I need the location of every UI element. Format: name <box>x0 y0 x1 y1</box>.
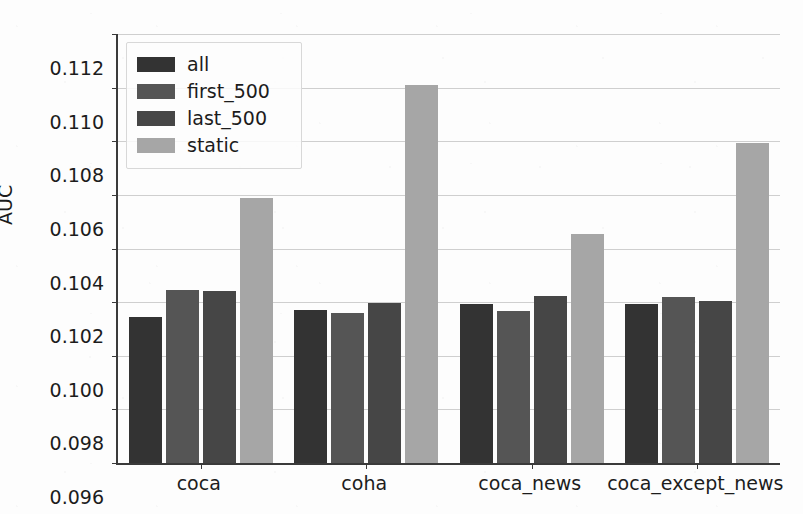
y-tick-mark <box>112 463 118 464</box>
x-group-label: coha <box>341 472 387 494</box>
x-group-label: coca <box>177 472 221 494</box>
bar <box>571 234 604 463</box>
gridline <box>118 195 780 196</box>
legend-label: first_500 <box>187 82 270 101</box>
bar <box>534 296 567 463</box>
legend-item: static <box>137 132 291 159</box>
bar <box>331 313 364 463</box>
x-tick-mark <box>532 463 533 469</box>
y-tick-label: 0.112 <box>14 59 104 78</box>
y-tick-mark <box>112 195 118 196</box>
bar <box>662 297 695 463</box>
gridline <box>118 34 780 35</box>
y-tick-label: 0.104 <box>14 273 104 292</box>
y-tick-label: 0.102 <box>14 327 104 346</box>
bar <box>497 311 530 463</box>
bar <box>405 85 438 463</box>
legend-item: first_500 <box>137 78 291 105</box>
bar <box>129 317 162 463</box>
x-group-label: coca_news <box>478 472 581 494</box>
x-tick-mark <box>201 463 202 469</box>
y-tick-mark <box>112 409 118 410</box>
y-tick-label: 0.106 <box>14 219 104 238</box>
bar <box>625 304 658 463</box>
bar <box>736 143 769 463</box>
legend-swatch <box>137 84 175 99</box>
y-tick-mark <box>112 34 118 35</box>
bar-chart-figure: 0.1120.1100.1080.1060.1040.1020.1000.098… <box>0 0 803 514</box>
bar <box>460 304 493 463</box>
x-tick-mark <box>366 463 367 469</box>
y-axis-title: AUC <box>0 185 16 225</box>
y-tick-label: 0.098 <box>14 434 104 453</box>
bar <box>294 310 327 463</box>
legend-item: last_500 <box>137 105 291 132</box>
y-tick-mark <box>112 356 118 357</box>
y-tick-label: 0.100 <box>14 380 104 399</box>
legend-swatch <box>137 111 175 126</box>
legend-label: static <box>187 136 239 155</box>
legend-label: all <box>187 55 209 74</box>
y-tick-mark <box>112 141 118 142</box>
legend-item: all <box>137 51 291 78</box>
legend-swatch <box>137 57 175 72</box>
bar <box>699 301 732 463</box>
bar <box>240 198 273 463</box>
y-tick-mark <box>112 302 118 303</box>
gridline <box>118 249 780 250</box>
y-tick-label: 0.096 <box>14 488 104 507</box>
legend-label: last_500 <box>187 109 267 128</box>
bar <box>368 303 401 463</box>
legend: allfirst_500last_500static <box>126 42 302 169</box>
y-tick-mark <box>112 88 118 89</box>
legend-swatch <box>137 138 175 153</box>
x-group-label: coca_except_news <box>607 472 783 494</box>
bar <box>166 290 199 463</box>
x-tick-mark <box>697 463 698 469</box>
y-tick-mark <box>112 249 118 250</box>
bar <box>203 291 236 463</box>
y-tick-label: 0.110 <box>14 112 104 131</box>
y-tick-label: 0.108 <box>14 166 104 185</box>
